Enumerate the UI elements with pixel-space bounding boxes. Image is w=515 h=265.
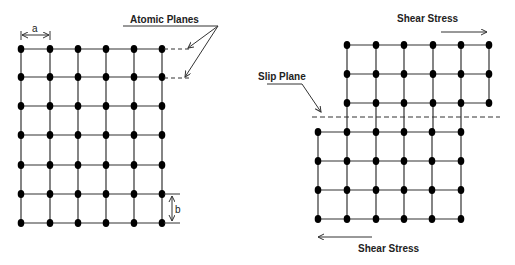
atom [315,215,322,223]
atom [344,128,351,136]
atom [430,41,437,49]
shear-stress-top-label: Shear Stress [397,13,459,24]
atom [75,131,82,139]
spacing-a-dimension: a [21,23,50,40]
spacing-b-dimension: b [164,194,181,223]
atom [18,190,25,198]
atom [131,190,138,198]
atom [159,73,166,81]
atom [75,161,82,169]
atom [401,70,408,78]
atom [103,102,110,110]
atom [486,41,493,49]
atom [47,102,54,110]
atom [131,45,138,53]
atom [430,99,437,107]
atom [429,128,436,136]
atom [47,131,54,139]
atom [47,45,54,53]
atom [103,131,110,139]
atom [131,219,138,227]
atom [429,215,436,223]
slip-diagram: Atomic Planes a b Slip Plane [0,0,515,265]
atom [131,161,138,169]
atom [103,161,110,169]
atom [373,70,380,78]
atom [47,219,54,227]
atom [131,131,138,139]
atom [344,41,351,49]
atom [159,161,166,169]
atom [344,99,351,107]
atom [458,99,465,107]
atom [401,41,408,49]
atom [18,73,25,81]
atom [131,102,138,110]
atom [344,215,351,223]
atom [315,157,322,165]
atom [373,128,380,136]
spacing-b-label: b [175,204,181,215]
atom [75,73,82,81]
atom [75,190,82,198]
atom [458,157,465,165]
atom [47,190,54,198]
atom [18,131,25,139]
atom [159,131,166,139]
atom [103,45,110,53]
atom [315,128,322,136]
shear-stress-top: Shear Stress [397,13,487,32]
slip-plane-label: Slip Plane [258,71,306,82]
atom [131,73,138,81]
atom [458,41,465,49]
atom [458,186,465,194]
atom [401,99,408,107]
atom [18,219,25,227]
atom [458,128,465,136]
atom [103,219,110,227]
atom [103,73,110,81]
shear-stress-bottom: Shear Stress [318,237,420,254]
atom [373,157,380,165]
atom [458,215,465,223]
shear-stress-bottom-label: Shear Stress [358,243,420,254]
atom [18,45,25,53]
right-lattice [315,41,493,223]
atom [75,219,82,227]
atom [401,157,408,165]
atom [430,70,437,78]
atom [373,99,380,107]
atomic-planes-label: Atomic Planes [130,14,199,25]
slip-plane-annotation: Slip Plane [258,71,500,117]
atom [159,102,166,110]
atom [401,215,408,223]
atom [344,157,351,165]
atom [373,215,380,223]
atom [373,186,380,194]
atom [344,186,351,194]
spacing-a-label: a [32,23,38,34]
atom [344,70,351,78]
atom [18,102,25,110]
atom [429,157,436,165]
atom [486,99,493,107]
atom [486,70,493,78]
atom [315,186,322,194]
left-lattice [18,45,166,227]
atom [18,161,25,169]
atom [47,161,54,169]
atom [75,45,82,53]
atom [401,186,408,194]
atom [103,190,110,198]
atom [429,186,436,194]
atom [458,70,465,78]
atom [47,73,54,81]
atomic-planes-annotation: Atomic Planes [123,14,218,78]
atom [401,128,408,136]
atom [373,41,380,49]
atom [75,102,82,110]
